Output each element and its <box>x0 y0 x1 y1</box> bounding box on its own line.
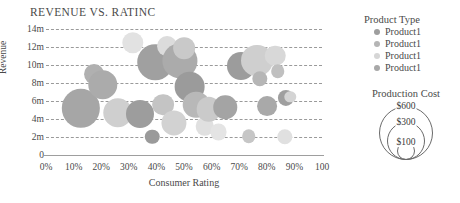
legend-item[interactable]: Product1 <box>358 26 458 37</box>
bubble-point <box>214 96 237 119</box>
x-tick-label: 70% <box>230 162 247 172</box>
y-tick-label: 4m <box>32 114 44 124</box>
legend-item-label: Product1 <box>385 38 421 49</box>
legend-title: Product Type <box>364 14 458 25</box>
bubble-point <box>173 37 195 59</box>
size-legend-bubbles: $600$300$100 <box>352 100 460 162</box>
x-tick-label: 60% <box>203 162 220 172</box>
legend-items: Product1Product1Product1Product1 <box>358 26 458 73</box>
bubble-point <box>126 100 154 128</box>
chart-title: REVENUE VS. RATINC <box>30 6 156 18</box>
bubble-point <box>210 123 227 140</box>
plot-area <box>46 29 322 155</box>
legend-item[interactable]: Product1 <box>358 62 458 73</box>
x-tick-label: 40% <box>148 162 165 172</box>
bubble-point <box>257 96 277 116</box>
x-tick-label: 80% <box>258 162 275 172</box>
y-tick-label: 10m <box>27 60 44 70</box>
x-axis-line <box>44 155 324 156</box>
product-type-legend: Product Type Product1Product1Product1Pro… <box>358 14 458 73</box>
size-legend-label: $100 <box>396 137 417 147</box>
bubble-chart: REVENUE VS. RATINC Revenue 02m4m6m8m10m1… <box>0 0 460 203</box>
bubble-point <box>88 70 117 99</box>
legend-swatch-icon <box>374 65 380 71</box>
bubble-point <box>162 110 187 135</box>
legend-item-label: Product1 <box>385 62 421 73</box>
bubble-point <box>277 129 292 144</box>
bubble-point <box>271 65 285 79</box>
legend-swatch-icon <box>374 53 380 59</box>
y-tick-label: 2m <box>32 132 44 142</box>
y-tick-label: 8m <box>32 78 44 88</box>
size-legend-label: $300 <box>396 117 417 127</box>
x-tick-label: 100 <box>315 162 329 172</box>
x-axis-ticks: 0%10%20%30%40%50%60%70%80%90%100 <box>0 162 340 176</box>
bubble-point <box>265 46 285 66</box>
legend-title: Production Cost <box>352 88 460 99</box>
x-tick-label: 10% <box>65 162 82 172</box>
x-tick-label: 20% <box>92 162 109 172</box>
size-legend-label: $600 <box>396 101 417 111</box>
x-tick-label: 0% <box>40 162 53 172</box>
y-tick-label: 12m <box>27 42 44 52</box>
x-tick-label: 90% <box>286 162 303 172</box>
legend-item-label: Product1 <box>385 50 421 61</box>
legend-swatch-icon <box>374 41 380 47</box>
x-tick-label: 30% <box>120 162 137 172</box>
x-axis-title: Consumer Rating <box>149 177 219 188</box>
legend-item-label: Product1 <box>385 26 421 37</box>
production-cost-legend: Production Cost $600$300$100 <box>352 88 460 162</box>
legend-item[interactable]: Product1 <box>358 38 458 49</box>
bubble-point <box>145 130 159 144</box>
x-tick-label: 50% <box>175 162 192 172</box>
gridline <box>46 29 322 30</box>
y-tick-label: 14m <box>27 24 44 34</box>
bubble-point <box>242 129 256 143</box>
legend-item[interactable]: Product1 <box>358 50 458 61</box>
y-tick-label: 6m <box>32 96 44 106</box>
legend-swatch-icon <box>374 29 380 35</box>
